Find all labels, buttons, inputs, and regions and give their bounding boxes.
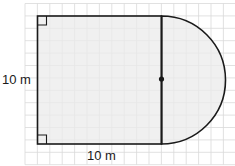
semicircle-shape	[162, 16, 226, 144]
height-label: 10 m	[2, 72, 31, 87]
composite-shape-diagram: 10 m 10 m	[0, 0, 235, 166]
semicircle-center-dot	[159, 76, 164, 81]
square-shape	[38, 16, 162, 144]
width-label: 10 m	[87, 148, 116, 163]
